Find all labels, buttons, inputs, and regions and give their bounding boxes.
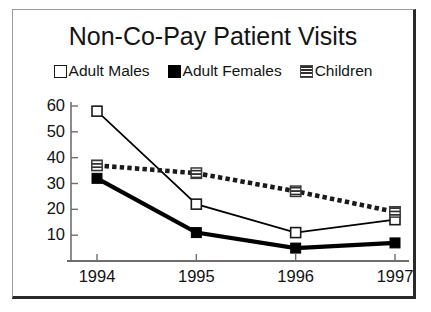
data-point-adult-females-1995 [191, 228, 201, 238]
data-point-adult-females-1996 [291, 243, 301, 253]
y-axis-tick-label: 10 [21, 225, 65, 244]
data-point-children-1994 [92, 160, 102, 170]
y-axis-tick-label: 60 [21, 96, 65, 115]
y-axis-tick-label: 30 [21, 174, 65, 193]
data-point-children-1997 [390, 207, 400, 217]
data-point-children-1996 [290, 186, 300, 196]
x-axis-tick-label: 1995 [161, 267, 231, 286]
series-line-adult-females [97, 178, 395, 248]
data-point-children-1995 [191, 168, 201, 178]
data-point-adult-males-1996 [291, 228, 301, 238]
chart-frame: Non-Co-Pay Patient Visits Adult Males Ad… [12, 9, 416, 299]
x-axis-tick-label: 1997 [360, 267, 430, 286]
x-axis-tick-label: 1994 [62, 267, 132, 286]
x-axis-tick-label: 1996 [261, 267, 331, 286]
data-point-adult-males-1994 [92, 106, 102, 116]
y-axis-tick-label: 20 [21, 199, 65, 218]
data-point-adult-females-1997 [390, 238, 400, 248]
y-axis-tick-label: 50 [21, 122, 65, 141]
plot-area: 1020304050601994199519961997 [13, 10, 417, 300]
data-point-adult-males-1995 [191, 199, 201, 209]
y-axis-tick-label: 40 [21, 148, 65, 167]
data-point-adult-females-1994 [92, 173, 102, 183]
plot-svg [13, 10, 417, 300]
series-line-adult-males [97, 111, 395, 232]
